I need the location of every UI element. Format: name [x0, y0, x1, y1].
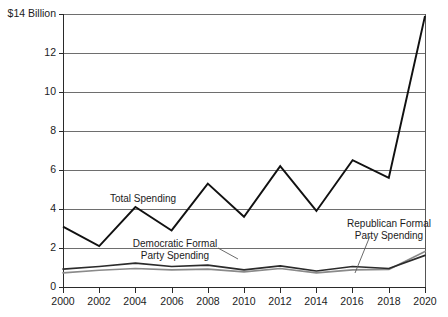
annotation-total-spending: Total Spending	[110, 193, 176, 204]
x-tick-label-2002: 2002	[87, 295, 111, 307]
y-tick-label-0: 0	[50, 280, 56, 292]
annotation-democratic-line1: Democratic Formal	[133, 238, 217, 249]
chart-figure: $14 Billion 12 10 8 6 4 2 0 2000 2002 20…	[0, 0, 448, 317]
y-tick-label-6: 6	[50, 163, 56, 175]
x-tick-label-2006: 2006	[160, 295, 184, 307]
annotation-republican-line2: Party Spending	[355, 230, 423, 241]
y-tick-label-4: 4	[50, 202, 56, 214]
x-axis-ticks	[63, 287, 425, 293]
x-tick-label-2000: 2000	[51, 295, 75, 307]
x-tick-label-2018: 2018	[377, 295, 401, 307]
plot-frame	[63, 14, 425, 287]
x-tick-label-2016: 2016	[340, 295, 364, 307]
y-tick-label-10: 10	[44, 85, 56, 97]
annotation-republican-line1: Republican Formal	[347, 218, 431, 229]
annotation-democratic-line2: Party Spending	[141, 250, 209, 261]
gridlines	[63, 14, 425, 248]
y-tick-label-2: 2	[50, 241, 56, 253]
y-axis-ticks	[59, 14, 63, 287]
x-tick-label-2020: 2020	[413, 295, 437, 307]
y-tick-label-12: 12	[44, 46, 56, 58]
x-tick-label-2008: 2008	[196, 295, 220, 307]
line-chart-canvas: $14 Billion 12 10 8 6 4 2 0 2000 2002 20…	[0, 0, 448, 317]
y-axis-unit-label: $14 Billion	[8, 7, 57, 19]
democratic-leader-line	[218, 248, 238, 259]
x-tick-label-2010: 2010	[232, 295, 256, 307]
x-tick-label-2012: 2012	[268, 295, 292, 307]
x-tick-label-2004: 2004	[123, 295, 147, 307]
x-tick-label-2014: 2014	[304, 295, 328, 307]
y-tick-label-8: 8	[50, 124, 56, 136]
